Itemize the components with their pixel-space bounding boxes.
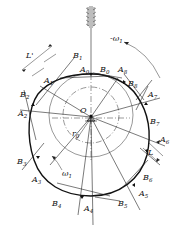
label-b5: B5 xyxy=(117,199,128,209)
r0-label: r0 xyxy=(72,129,80,139)
label-a1: A1 xyxy=(43,76,53,86)
label-b3: B3 xyxy=(16,157,27,167)
center-label: O xyxy=(80,106,87,115)
follower-guide-icon xyxy=(86,6,96,28)
label-b6: B6 xyxy=(142,173,153,183)
label-b4: B4 xyxy=(51,199,62,209)
label-a6: A6 xyxy=(159,135,170,145)
contact-markers xyxy=(31,73,148,199)
l-prime-label: L' xyxy=(25,51,34,60)
label-a7: A7 xyxy=(147,90,158,100)
label-b1: B1 xyxy=(72,51,82,61)
label-b7: B7 xyxy=(149,117,160,127)
neg-omega-label: -ω1 xyxy=(110,34,123,44)
label-b8: B8 xyxy=(127,79,138,89)
cam-profile-diagram: -ω1 L' xyxy=(0,0,177,233)
label-a4: A4 xyxy=(83,204,94,214)
label-b0: B0 xyxy=(99,65,110,75)
label-a3: A3 xyxy=(31,175,42,185)
reverse-rotation-arrow xyxy=(124,42,160,78)
length-dimension-top xyxy=(22,44,56,76)
label-a0: A0 xyxy=(79,65,90,75)
cam-profile-curve xyxy=(29,74,149,196)
radial-lines xyxy=(20,78,165,225)
omega-label: ω1 xyxy=(62,169,72,179)
label-b2: B2 xyxy=(19,90,30,100)
label-a5: A5 xyxy=(138,189,149,199)
l-label: L xyxy=(147,148,153,157)
label-a8: A8 xyxy=(117,65,128,75)
